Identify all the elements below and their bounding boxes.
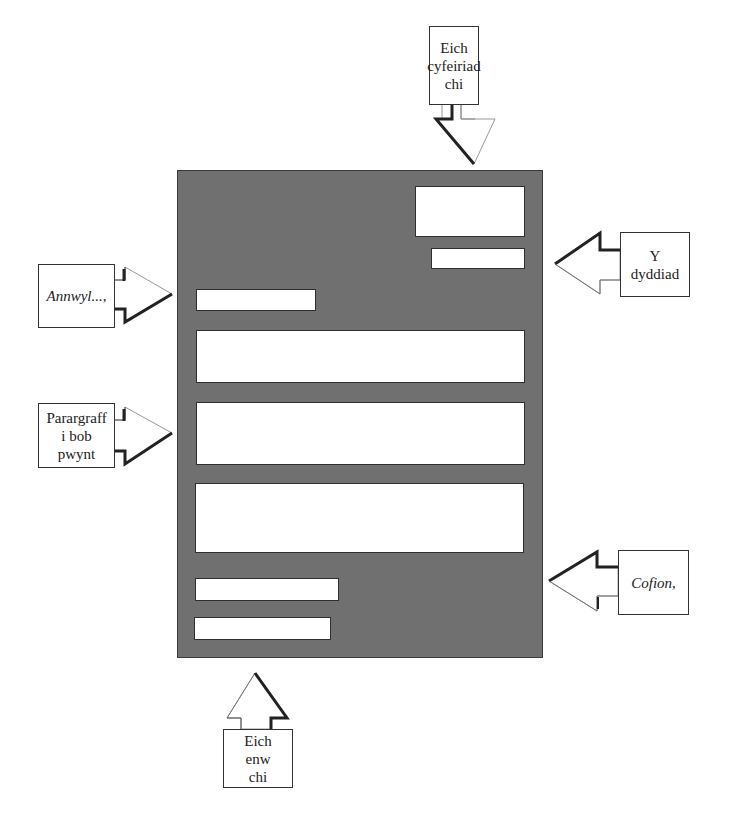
- arrow-right-icon: [114, 267, 172, 322]
- closing-label-text: Cofion,: [631, 574, 676, 592]
- arrow-left-icon: [555, 233, 620, 294]
- name-label-text: Eich enw chi: [244, 732, 272, 786]
- address-label: Eich cyfeiriad chi: [429, 26, 479, 105]
- name-label: Eich enw chi: [223, 729, 293, 788]
- arrow-up-icon: [227, 673, 287, 729]
- arrow-down-icon: [436, 104, 495, 164]
- date-label: Y dyddiad: [620, 232, 690, 297]
- paragraph-label: Parargraff i bob pwynt: [38, 403, 115, 468]
- arrow-left-icon: [549, 552, 618, 611]
- address-label-text: Eich cyfeiriad chi: [427, 39, 480, 93]
- arrow-right-icon: [114, 407, 172, 464]
- date-label-text: Y dyddiad: [631, 247, 679, 283]
- salutation-label: Annwyl...,: [38, 264, 115, 328]
- closing-label: Cofion,: [618, 550, 689, 615]
- salutation-label-text: Annwyl...,: [47, 287, 107, 305]
- paragraph-label-text: Parargraff i bob pwynt: [46, 409, 106, 463]
